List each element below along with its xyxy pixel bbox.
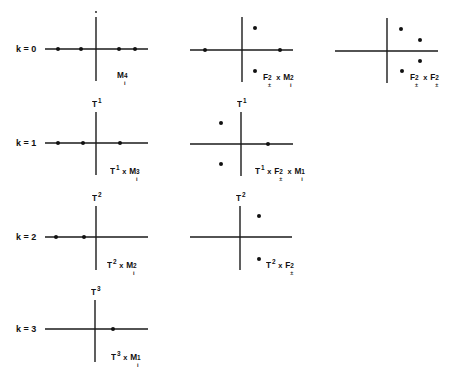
t3-axis-label: T3 (91, 288, 101, 297)
product-m4: M4i (117, 71, 129, 80)
k1-label: k = 1 (16, 138, 36, 148)
t2-axis-label-2: T2 (236, 194, 246, 203)
k3-label: k = 3 (16, 324, 36, 334)
product-t3-m1: T3xM1i (111, 353, 143, 362)
product-t1-f2-m1: T1xF2±xM1i (255, 167, 307, 176)
product-f2-f2: F2±xF2± (410, 73, 441, 82)
t1-axis-label-2: T1 (237, 100, 247, 109)
product-t2-m2: T2xM2i (107, 261, 139, 270)
diagram-canvas (0, 0, 453, 381)
product-f2-m2: F2±xM2i (263, 73, 296, 82)
product-t1-m3: T1xM3i (110, 167, 142, 176)
t2-axis-label: T2 (92, 194, 102, 203)
product-t2-f2: T2xF2± (266, 261, 296, 270)
k0-label: k = 0 (16, 44, 36, 54)
t1-axis-label: T1 (92, 100, 102, 109)
k2-label: k = 2 (16, 232, 36, 242)
panel-k0-m4 (45, 11, 148, 81)
